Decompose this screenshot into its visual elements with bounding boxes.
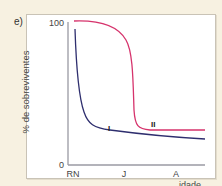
y-tick-0: 0 — [59, 160, 64, 170]
curve-i — [75, 29, 205, 139]
x-tick-j: J — [122, 169, 127, 179]
curve-ii-label: II — [151, 120, 155, 129]
x-tick-a: A — [173, 169, 179, 179]
curve-i-label: I — [108, 124, 110, 133]
x-axis-label: idade — [179, 180, 201, 186]
x-tick-rn: RN — [67, 169, 80, 179]
y-tick-100: 100 — [49, 18, 64, 28]
survivorship-chart: 100 0 RN J A idade I II — [0, 0, 222, 186]
curve-ii — [74, 21, 205, 130]
